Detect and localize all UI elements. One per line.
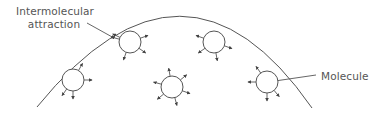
force-arrow — [256, 66, 261, 73]
force-arrow — [198, 48, 205, 53]
surface-tension-diagram: Intermolecular attraction Molecule — [0, 0, 376, 117]
force-arrow — [140, 36, 148, 39]
molecule-circle — [203, 31, 225, 53]
molecule-circle — [256, 71, 278, 93]
molecule — [248, 66, 279, 101]
force-arrow — [224, 46, 232, 49]
force-arrow — [79, 64, 83, 71]
force-arrow — [180, 75, 186, 80]
force-arrow — [196, 36, 204, 39]
force-arrow — [139, 48, 146, 53]
molecule — [112, 31, 148, 60]
force-arrow — [274, 90, 279, 96]
force-arrow — [112, 37, 120, 39]
molecules-group — [62, 31, 279, 105]
molecule — [196, 31, 232, 61]
intermolecular-attraction-label: Intermolecular attraction — [16, 5, 92, 31]
molecule-label: Molecule — [321, 70, 368, 83]
force-arrow — [216, 53, 217, 61]
force-arrow — [157, 94, 163, 99]
force-arrow — [124, 52, 127, 60]
force-arrow — [154, 82, 162, 84]
force-arrow — [182, 91, 190, 94]
molecule-circle — [161, 76, 183, 98]
force-arrow — [175, 98, 177, 106]
attraction-label-line2: attraction — [16, 18, 92, 31]
molecule — [62, 64, 92, 100]
molecule — [154, 68, 190, 105]
attraction-label-line1: Intermolecular — [16, 5, 92, 18]
force-arrow — [169, 68, 170, 76]
molecule-circle — [119, 31, 141, 53]
molecule-circle — [62, 69, 84, 91]
force-arrow — [62, 89, 67, 96]
